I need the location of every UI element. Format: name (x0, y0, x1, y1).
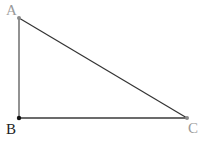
edge-ac (19, 18, 187, 118)
triangle-diagram: A B C (0, 0, 200, 142)
vertex-a-point (17, 16, 21, 20)
vertex-a-label: A (6, 2, 17, 18)
vertex-b-label: B (6, 121, 16, 137)
vertex-b-point (17, 116, 21, 120)
vertex-c-label: C (188, 120, 198, 136)
